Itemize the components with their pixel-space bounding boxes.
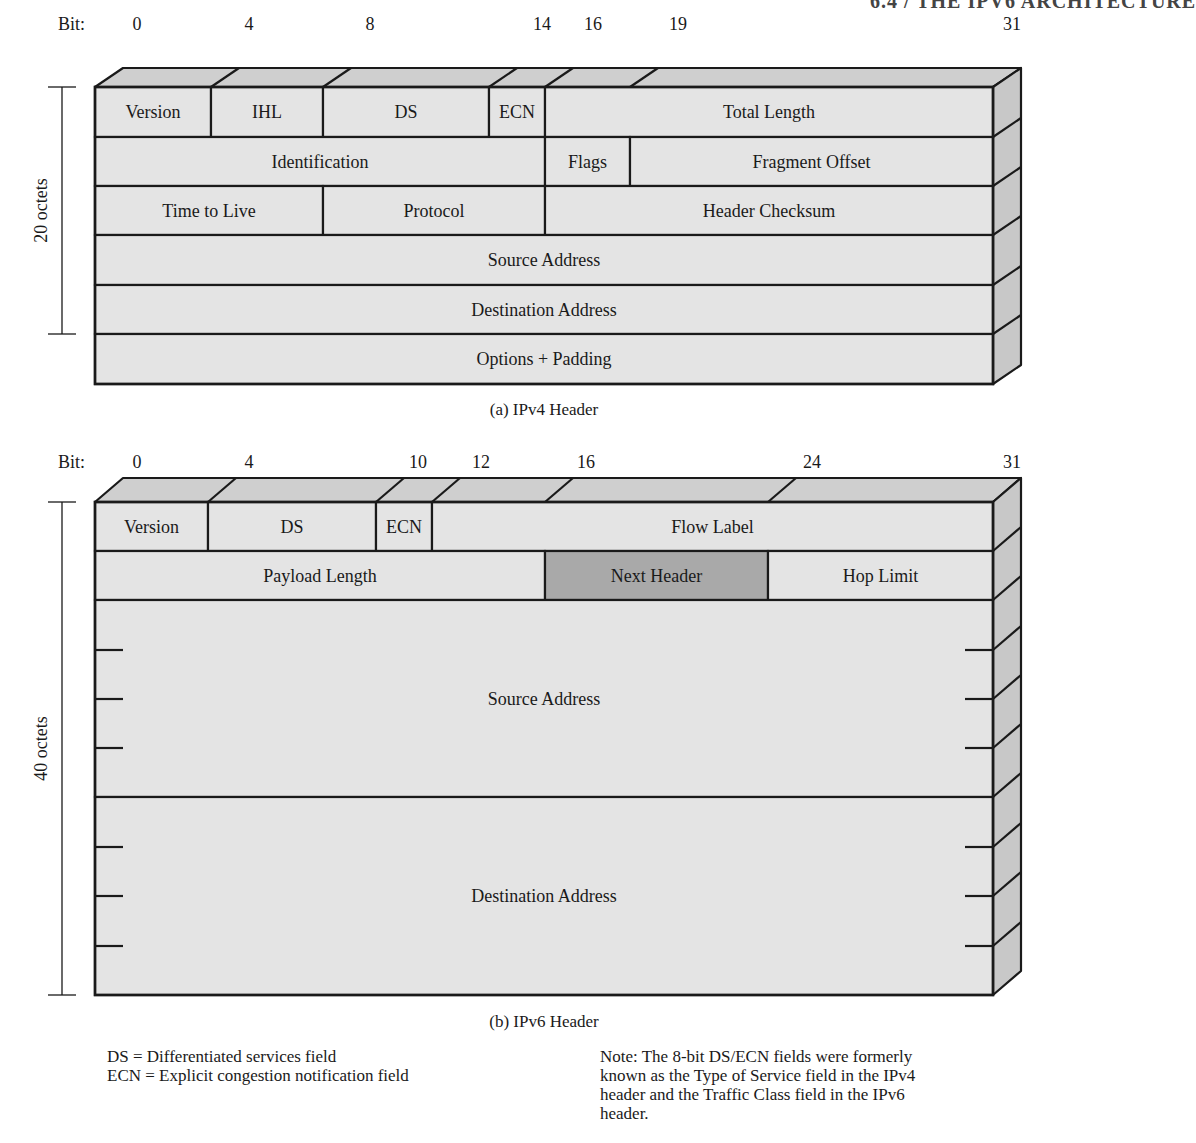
field-source-address: Source Address (95, 600, 993, 797)
field-label: Source Address (488, 689, 600, 709)
note-line-3: header and the Traffic Class field in th… (600, 1085, 915, 1104)
field-ds: DS (208, 502, 376, 551)
field-label: Next Header (611, 566, 702, 586)
note-line-4: header. (600, 1104, 915, 1123)
field-label: Version (124, 517, 179, 537)
note-line-2: known as the Type of Service field in th… (600, 1066, 915, 1085)
note-line-1: Note: The 8-bit DS/ECN fields were forme… (600, 1047, 915, 1066)
field-label: Payload Length (263, 566, 376, 586)
field-label: DS (280, 517, 303, 537)
field-payload-length: Payload Length (95, 551, 545, 600)
field-label: Hop Limit (843, 566, 919, 586)
footnote: Note: The 8-bit DS/ECN fields were forme… (600, 1047, 915, 1123)
field-hop-limit: Hop Limit (768, 551, 993, 600)
field-next-header: Next Header (545, 551, 768, 600)
ipv6-caption: (b) IPv6 Header (489, 1012, 599, 1032)
field-destination-address: Destination Address (95, 797, 993, 995)
field-ecn: ECN (376, 502, 432, 551)
field-label: Destination Address (471, 886, 617, 906)
abbreviation-legend: DS = Differentiated services field ECN =… (107, 1047, 409, 1085)
field-label: ECN (386, 517, 422, 537)
legend-line-ds: DS = Differentiated services field (107, 1047, 409, 1066)
field-label: Flow Label (671, 517, 754, 537)
ipv6-header-diagram: VersionDSECNFlow LabelPayload LengthNext… (0, 0, 1061, 1010)
field-version: Version (95, 502, 208, 551)
field-flow-label: Flow Label (432, 502, 993, 551)
legend-line-ecn: ECN = Explicit congestion notification f… (107, 1066, 409, 1085)
